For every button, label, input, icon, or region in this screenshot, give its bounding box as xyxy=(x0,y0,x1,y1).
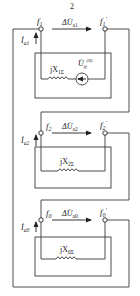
label-jx2: jX2Σ xyxy=(59,157,74,167)
node-f1 xyxy=(39,27,43,31)
wire-f2p-to-f0 xyxy=(41,133,129,220)
sequence-network-diagram: 2 f1 f1′ ΔU̇a1 İa1 jX1Σ U̇ff(0) f2 f2′ Δ… xyxy=(0,0,140,296)
label-delta-u-a1: ΔU̇a1 xyxy=(61,18,78,28)
box2-left-lead xyxy=(41,133,58,171)
node-f0 xyxy=(39,218,43,222)
label-f1-prime: f1′ xyxy=(100,16,108,27)
terminal-nodes xyxy=(39,27,107,222)
label-jx0: jX0Σ xyxy=(59,245,74,255)
network-box-2 xyxy=(35,147,111,188)
label-f0-prime: f0′ xyxy=(100,207,108,218)
label-i-a0: İa0 xyxy=(20,223,29,233)
inductor-3 xyxy=(56,257,76,259)
node-f2-prime xyxy=(103,131,107,135)
node-f1-prime xyxy=(103,27,107,31)
box1-left-lead xyxy=(41,29,48,79)
node-f2 xyxy=(39,131,43,135)
label-i-a2: İa2 xyxy=(20,136,29,146)
label-u-ff0: U̇ff(0) xyxy=(78,58,93,69)
circuit-svg: 2 f1 f1′ ΔU̇a1 İa1 jX1Σ U̇ff(0) f2 f2′ Δ… xyxy=(0,0,140,296)
box3-left-lead xyxy=(41,220,56,259)
network-box-1 xyxy=(35,53,111,98)
top-label: 2 xyxy=(70,2,74,11)
label-f0: f0 xyxy=(46,208,52,219)
wire-f1p-to-f2 xyxy=(41,29,129,133)
node-f0-prime xyxy=(103,218,107,222)
inductor-1 xyxy=(48,77,68,79)
label-f2-prime: f2′ xyxy=(100,120,108,131)
label-f1: f1 xyxy=(37,16,43,27)
label-i-a1: İa1 xyxy=(20,36,29,46)
box2-right-lead xyxy=(78,133,105,171)
label-delta-u-a2: ΔU̇a2 xyxy=(61,122,78,132)
box1-right-lead xyxy=(88,29,105,79)
inductor-2 xyxy=(58,169,78,171)
box3-right-lead xyxy=(76,220,105,259)
label-f2: f2 xyxy=(46,121,52,132)
label-delta-u-a0: ΔU̇a0 xyxy=(61,209,78,219)
network-box-3 xyxy=(35,237,111,276)
label-jx1: jX1Σ xyxy=(49,65,64,75)
